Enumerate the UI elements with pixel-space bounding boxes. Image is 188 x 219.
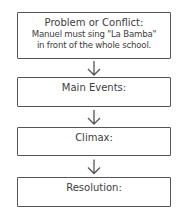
main-events-title: Main Events:: [18, 82, 170, 94]
problem-conflict-box: Problem or Conflict: Manuel must sing "L…: [17, 12, 171, 59]
down-arrow-icon: [86, 60, 102, 77]
climax-box: Climax:: [17, 127, 171, 156]
resolution-box: Resolution:: [17, 177, 171, 207]
problem-conflict-title: Problem or Conflict:: [18, 17, 170, 29]
down-arrow-icon: [86, 109, 102, 126]
problem-line-1: Manuel must sing "La Bamba": [18, 29, 170, 40]
resolution-title: Resolution:: [18, 182, 170, 194]
climax-title: Climax:: [18, 132, 170, 144]
problem-line-2: in front of the whole school.: [18, 40, 170, 51]
down-arrow-icon: [86, 158, 102, 176]
main-events-box: Main Events:: [17, 77, 171, 107]
